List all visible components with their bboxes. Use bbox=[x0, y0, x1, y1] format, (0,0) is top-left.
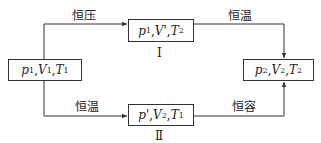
process-label-isochoric: 恒容 bbox=[232, 97, 256, 114]
process-label-isothermal-top: 恒温 bbox=[228, 6, 252, 23]
state-box-initial: p1, V1, T1 bbox=[8, 59, 82, 81]
state-p: p bbox=[21, 63, 29, 77]
state-box-path2: p', V2, T1 bbox=[128, 104, 194, 126]
process-label-isobaric: 恒压 bbox=[72, 6, 96, 23]
path-label-2: Ⅱ bbox=[155, 129, 163, 143]
process-label-isothermal-bottom: 恒温 bbox=[75, 97, 99, 114]
state-t: T bbox=[56, 63, 64, 77]
path-label-1: Ⅰ bbox=[157, 46, 162, 60]
thermodynamic-path-diagram: p1, V1, T1 p1, V', T2 p', V2, T1 p2, V2,… bbox=[0, 0, 321, 143]
state-v: V bbox=[38, 63, 47, 77]
state-box-final: p2, V2, T2 bbox=[243, 59, 314, 81]
state-box-path1: p1, V', T2 bbox=[128, 19, 194, 42]
